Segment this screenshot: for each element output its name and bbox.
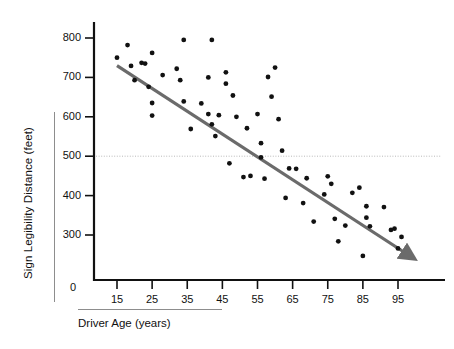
data-point: [364, 215, 369, 220]
data-point: [399, 235, 404, 240]
x-tick-label: 95: [383, 293, 413, 305]
x-axis-label-block: Driver Age (years): [78, 309, 278, 343]
chart-canvas: Sign Legibility Distance (feet) Driver A…: [0, 0, 454, 349]
data-point: [216, 113, 221, 118]
data-point: [332, 216, 337, 221]
y-tick-label: 600: [41, 110, 81, 122]
data-point: [227, 161, 232, 166]
x-tick-label: 15: [102, 293, 132, 305]
data-point: [181, 38, 186, 43]
data-point: [304, 176, 309, 181]
y-tick-label: 700: [41, 70, 81, 82]
y-axis-ticks: [85, 38, 94, 235]
data-point: [329, 181, 334, 186]
y-tick-label: 300: [41, 228, 81, 240]
data-point: [255, 112, 260, 117]
data-point: [280, 148, 285, 153]
data-point: [125, 43, 130, 48]
data-point: [364, 204, 369, 209]
data-point: [150, 51, 155, 56]
data-point: [266, 75, 271, 80]
y-tick-label: 400: [41, 189, 81, 201]
data-point: [325, 174, 330, 179]
data-point: [206, 112, 211, 117]
data-point: [181, 99, 186, 104]
data-point: [259, 155, 264, 160]
x-tick-label: 65: [278, 293, 308, 305]
data-point: [132, 78, 137, 83]
data-point: [311, 219, 316, 224]
data-point: [248, 174, 253, 179]
data-point: [213, 134, 218, 139]
data-point: [283, 196, 288, 201]
data-point: [231, 93, 236, 98]
data-point: [350, 190, 355, 195]
y-axis-label: Sign Legibility Distance (feet): [22, 108, 34, 298]
data-point: [287, 166, 292, 171]
data-point: [269, 94, 274, 99]
data-point: [392, 226, 397, 231]
data-point: [150, 101, 155, 106]
x-axis-ticks: [117, 280, 398, 289]
data-point: [262, 176, 267, 181]
y-axis-label-block: Sign Legibility Distance (feet): [18, 112, 38, 302]
data-point: [223, 81, 228, 86]
data-point: [245, 126, 250, 131]
data-point: [276, 117, 281, 122]
y-tick-label: 500: [41, 149, 81, 161]
data-point: [209, 38, 214, 43]
data-point: [301, 201, 306, 206]
data-point: [160, 73, 165, 78]
data-point: [150, 113, 155, 118]
data-point: [368, 224, 373, 229]
y-axis-label-rule: [54, 112, 55, 302]
data-point: [259, 141, 264, 146]
x-tick-label: 55: [243, 293, 273, 305]
data-point: [234, 114, 239, 119]
data-point: [382, 205, 387, 210]
data-point: [209, 122, 214, 127]
data-point: [188, 127, 193, 132]
data-point: [343, 223, 348, 228]
data-point: [360, 253, 365, 258]
x-axis-label: Driver Age (years): [78, 317, 171, 329]
data-point: [146, 84, 151, 89]
data-point: [357, 185, 362, 190]
x-tick-label: 75: [313, 293, 343, 305]
x-tick-label: 35: [172, 293, 202, 305]
x-tick-label: 85: [348, 293, 378, 305]
data-point: [322, 192, 327, 197]
x-tick-label: 25: [137, 293, 167, 305]
x-tick-label: 45: [207, 293, 237, 305]
data-point: [223, 70, 228, 75]
x-axis-label-rule: [78, 309, 222, 310]
data-point: [174, 66, 179, 71]
data-point: [115, 55, 120, 60]
data-point: [143, 61, 148, 66]
data-point: [199, 101, 204, 106]
data-point: [294, 166, 299, 171]
y-tick-label: 800: [41, 31, 81, 43]
data-point: [336, 239, 341, 244]
data-point: [396, 246, 401, 251]
origin-label: 0: [66, 281, 80, 293]
data-point: [206, 75, 211, 80]
data-point: [241, 175, 246, 180]
data-point: [273, 65, 278, 70]
data-point: [178, 78, 183, 83]
data-point: [129, 64, 134, 69]
